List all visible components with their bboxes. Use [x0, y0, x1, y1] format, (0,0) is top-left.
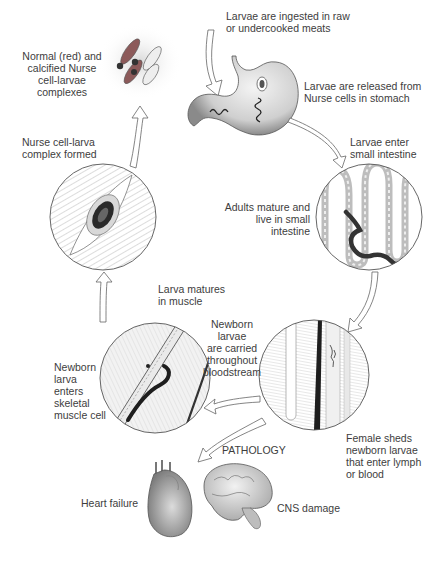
stomach-illustration	[188, 56, 298, 135]
small-intestine-circle	[316, 163, 422, 280]
arrow-intestine-to-blood	[348, 272, 378, 332]
label-bloodstream: Newborn larvae are carried throughout bl…	[196, 318, 268, 378]
label-ingestion: Larvae are ingested in raw or undercooke…	[226, 10, 350, 34]
brain-illustration	[204, 464, 272, 529]
label-female-sheds: Female sheds newborn larvae that enter l…	[346, 432, 421, 480]
label-adults: Adults mature and live in small intestin…	[220, 201, 310, 237]
arrow-to-calcified	[130, 106, 148, 168]
label-enters-muscle: Newborn larva enters skeletal muscle cel…	[54, 361, 106, 421]
label-calcified: Normal (red) and calcified Nurse cell-la…	[22, 50, 102, 98]
arrow-ingestion	[206, 30, 222, 96]
label-cns-damage: CNS damage	[277, 502, 340, 514]
label-stomach: Larvae are released from Nurse cells in …	[304, 80, 421, 104]
heart-illustration	[148, 460, 192, 537]
pathology-title: PATHOLOGY	[222, 444, 286, 456]
arrow-muscle-to-nurse-cell	[96, 272, 112, 322]
nurse-cell-larva-circle	[48, 162, 158, 272]
arrow-blood-to-muscle	[204, 396, 260, 414]
label-complex-formed: Nurse cell-larva complex formed	[22, 136, 97, 160]
arrow-stomach-to-intestine	[288, 118, 346, 168]
label-matures: Larva matures in muscle	[158, 283, 225, 307]
bloodstream-circle	[255, 315, 375, 435]
label-enter-intestine: Larvae enter small intestine	[350, 136, 417, 160]
nurse-cell-complexes-illustration	[98, 24, 182, 100]
label-heart-failure: Heart failure	[81, 497, 138, 509]
